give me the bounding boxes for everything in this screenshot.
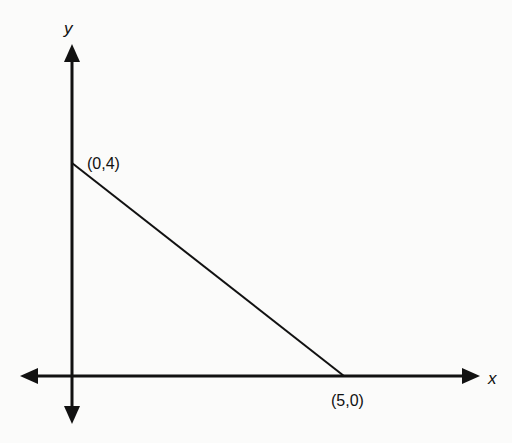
line-segment: [72, 163, 344, 376]
point-label-b: (5,0): [331, 392, 364, 409]
x-axis-left-arrow-icon: [20, 368, 38, 384]
coordinate-diagram: y x (0,4) (5,0): [0, 0, 512, 443]
point-label-a: (0,4): [87, 155, 120, 172]
y-axis-label: y: [63, 19, 74, 38]
x-axis-right-arrow-icon: [462, 368, 480, 384]
diagram-svg: y x (0,4) (5,0): [0, 0, 512, 443]
y-axis-up-arrow-icon: [64, 44, 80, 62]
x-axis-label: x: [487, 369, 497, 388]
y-axis-down-arrow-icon: [64, 406, 80, 424]
